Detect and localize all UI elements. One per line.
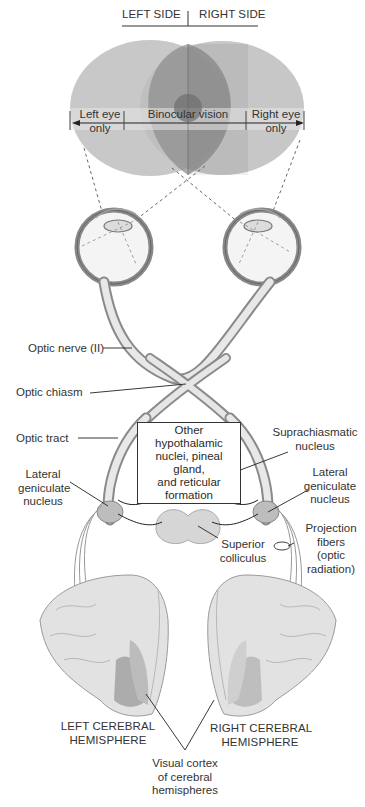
other-hypothalamic-nuclei-box: Other hypothalamic nuclei, pineal gland,…	[137, 422, 241, 504]
right-hemisphere-label: RIGHT CEREBRAL HEMISPHERE	[210, 722, 310, 749]
superior-colliculus	[156, 510, 220, 544]
superior-colliculus-label: Superior colliculus	[214, 538, 272, 565]
projection-fibers-marker	[274, 542, 290, 550]
optic-nerve-label: Optic nerve (II)	[28, 342, 104, 356]
right-side-label: RIGHT SIDE	[199, 8, 266, 22]
suprachiasmatic-label: Suprachiasmatic nucleus	[270, 426, 360, 453]
visual-cortex-label: Visual cortex of cerebral hemispheres	[146, 757, 224, 798]
right-eye	[225, 209, 299, 284]
lgn-right-label: Lateral geniculate nucleus	[302, 466, 358, 507]
left-eye	[77, 209, 151, 284]
lgn-left	[97, 501, 123, 523]
left-side-label: LEFT SIDE	[122, 8, 181, 22]
projection-fibers-label: Projection fibers (optic radiation)	[300, 522, 362, 576]
left-eye-only-label: Left eye only	[76, 108, 124, 135]
left-hemisphere-label: LEFT CEREBRAL HEMISPHERE	[60, 720, 156, 747]
right-hemisphere	[208, 575, 336, 716]
lgn-left-label: Lateral geniculate nucleus	[18, 468, 68, 509]
binocular-vision-label: Binocular vision	[140, 108, 236, 122]
left-hemisphere	[40, 575, 168, 716]
right-eye-only-label: Right eye only	[248, 108, 304, 135]
optic-chiasm-label: Optic chiasm	[16, 386, 82, 400]
optic-tract-label: Optic tract	[16, 432, 68, 446]
cerebral-hemispheres	[40, 575, 336, 716]
lgn-right	[253, 501, 279, 523]
